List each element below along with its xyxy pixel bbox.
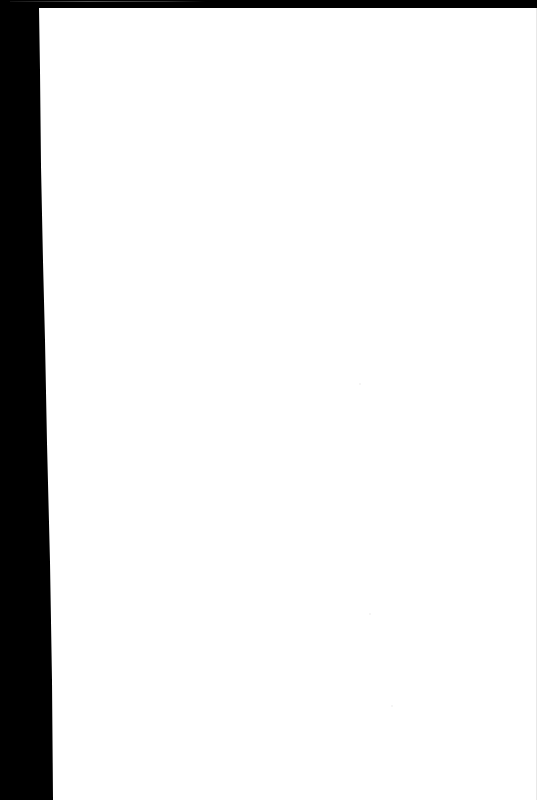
scanned-page-image — [0, 0, 537, 800]
scan-speck — [391, 705, 393, 707]
scan-top-border — [0, 0, 537, 8]
scan-speck — [369, 613, 371, 615]
scan-speck — [359, 383, 361, 385]
blank-page — [39, 8, 537, 800]
scan-top-highlight — [10, 1, 205, 2]
page-content — [99, 48, 507, 760]
